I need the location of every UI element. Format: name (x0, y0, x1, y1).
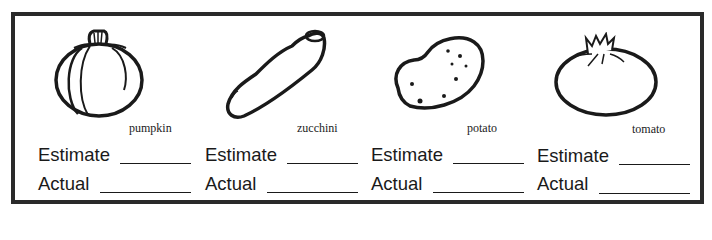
estimate-label-pumpkin: Estimate (38, 146, 110, 165)
estimate-label-tomato: Estimate (537, 147, 609, 166)
estimate-blank-zucchini[interactable] (287, 163, 358, 164)
actual-label-pumpkin: Actual (38, 175, 89, 194)
tomato-label: tomato (632, 122, 665, 137)
zucchini-icon (222, 28, 332, 120)
estimate-label-zucchini: Estimate (205, 146, 277, 165)
potato-label: potato (467, 121, 497, 136)
estimate-blank-potato[interactable] (453, 163, 524, 164)
zucchini-label: zucchini (297, 121, 338, 136)
estimate-label-potato: Estimate (371, 146, 443, 165)
actual-label-potato: Actual (371, 175, 422, 194)
actual-label-tomato: Actual (537, 175, 588, 194)
actual-blank-tomato[interactable] (599, 193, 690, 194)
actual-blank-pumpkin[interactable] (100, 192, 191, 193)
estimate-blank-tomato[interactable] (619, 164, 690, 165)
actual-label-zucchini: Actual (205, 175, 256, 194)
actual-blank-potato[interactable] (433, 192, 524, 193)
pumpkin-icon (52, 28, 148, 120)
pumpkin-label: pumpkin (129, 121, 172, 136)
potato-icon (390, 34, 490, 114)
tomato-icon (552, 32, 660, 118)
estimate-blank-pumpkin[interactable] (120, 163, 191, 164)
actual-blank-zucchini[interactable] (267, 192, 358, 193)
